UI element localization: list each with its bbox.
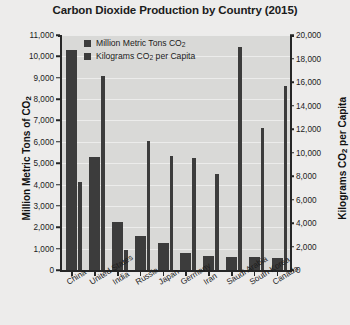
y-axis-right-tick-label: 8,000 bbox=[296, 172, 317, 181]
y-axis-right-tick-mark bbox=[290, 246, 294, 248]
x-axis-label-iran: Iran bbox=[202, 272, 219, 287]
chart-container: Carbon Dioxide Production by Country (20… bbox=[0, 0, 350, 325]
bar-kilograms-per-capita[interactable] bbox=[124, 250, 128, 270]
bar-group[interactable] bbox=[272, 35, 288, 270]
y-axis-right-tick-label: 4,000 bbox=[296, 219, 317, 228]
x-axis-tick-mark bbox=[94, 272, 96, 276]
y-axis-left-tick-label: 11,000 bbox=[8, 31, 54, 40]
y-axis-right-tick-label: 0 bbox=[296, 266, 301, 275]
y-axis-right-tick-label: 16,000 bbox=[296, 78, 321, 87]
bar-kilograms-per-capita[interactable] bbox=[78, 182, 82, 270]
bar-kilograms-per-capita[interactable] bbox=[147, 141, 151, 270]
bar-million-metric-tons[interactable] bbox=[180, 253, 191, 270]
y-axis-left-tick-mark bbox=[56, 162, 60, 164]
x-axis-tick-mark bbox=[140, 272, 142, 276]
bar-kilograms-per-capita[interactable] bbox=[192, 158, 196, 270]
bar-kilograms-per-capita[interactable] bbox=[261, 128, 265, 270]
bar-group[interactable] bbox=[66, 35, 82, 270]
bar-million-metric-tons[interactable] bbox=[112, 222, 123, 270]
y-axis-right-tick-label: 18,000 bbox=[296, 54, 321, 63]
y-axis-left-tick-mark bbox=[56, 248, 60, 250]
y-axis-left-tick-mark bbox=[56, 227, 60, 229]
y-axis-left-tick-mark bbox=[56, 205, 60, 207]
y-axis-left-tick-mark bbox=[56, 184, 60, 186]
bar-group[interactable] bbox=[112, 35, 128, 270]
y-axis-left-tick-mark bbox=[56, 56, 60, 58]
bar-million-metric-tons[interactable] bbox=[135, 236, 146, 270]
bars-layer bbox=[62, 35, 290, 270]
bar-kilograms-per-capita[interactable] bbox=[170, 156, 174, 270]
chart-title: Carbon Dioxide Production by Country (20… bbox=[0, 4, 350, 16]
bar-million-metric-tons[interactable] bbox=[66, 50, 77, 270]
bar-group[interactable] bbox=[89, 35, 105, 270]
plot-area bbox=[60, 35, 292, 272]
bar-million-metric-tons[interactable] bbox=[89, 157, 100, 270]
bar-kilograms-per-capita[interactable] bbox=[284, 86, 288, 270]
y-axis-right-tick-label: 10,000 bbox=[296, 148, 321, 157]
y-axis-right-tick-mark bbox=[290, 128, 294, 130]
x-axis-tick-mark bbox=[254, 272, 256, 276]
x-axis-tick-mark bbox=[208, 272, 210, 276]
y-axis-left-tick-mark bbox=[56, 120, 60, 122]
bar-group[interactable] bbox=[158, 35, 174, 270]
y-axis-left-tick-mark bbox=[56, 77, 60, 79]
y-axis-right-tick-label: 2,000 bbox=[296, 242, 317, 251]
x-axis-label-india: India bbox=[111, 270, 131, 287]
x-axis-tick-mark bbox=[277, 272, 279, 276]
y-axis-right-tick-mark bbox=[290, 81, 294, 83]
bar-million-metric-tons[interactable] bbox=[272, 258, 283, 270]
x-axis-tick-mark bbox=[185, 272, 187, 276]
y-axis-left-tick-label: 0 bbox=[8, 266, 54, 275]
y-axis-right-tick-mark bbox=[290, 34, 294, 36]
y-axis-right-tick-label: 20,000 bbox=[296, 31, 321, 40]
x-axis-tick-mark bbox=[163, 272, 165, 276]
y-axis-left-tick-mark bbox=[56, 98, 60, 100]
y-axis-right-tick-mark bbox=[290, 199, 294, 201]
legend-label-kilograms-per-capita: Kilograms CO2 per Capita bbox=[96, 51, 195, 61]
y-axis-left-title-subscript: 2 bbox=[24, 96, 33, 100]
legend-item-million-metric-tons: Million Metric Tons CO2 bbox=[84, 38, 195, 48]
y-axis-left-tick-mark bbox=[56, 141, 60, 143]
x-axis-tick-mark bbox=[231, 272, 233, 276]
y-axis-right-title-subscript: 2 bbox=[340, 149, 349, 153]
bar-kilograms-per-capita[interactable] bbox=[238, 47, 242, 270]
y-axis-right-tick-mark bbox=[290, 222, 294, 224]
y-axis-left-tick-mark bbox=[56, 269, 60, 271]
bar-million-metric-tons[interactable] bbox=[249, 257, 260, 270]
y-axis-left-title: Million Metric Tons of CO2 bbox=[21, 58, 34, 258]
y-axis-right-tick-mark bbox=[290, 152, 294, 154]
y-axis-right-title-suffix: per Capita bbox=[337, 97, 348, 149]
y-axis-right-tick-mark bbox=[290, 105, 294, 107]
y-axis-right-title-text: Kilograms CO bbox=[337, 153, 348, 220]
x-axis-tick-mark bbox=[117, 272, 119, 276]
y-axis-right-tick-label: 14,000 bbox=[296, 101, 321, 110]
x-axis-tick-mark bbox=[71, 272, 73, 276]
y-axis-right-tick-label: 12,000 bbox=[296, 125, 321, 134]
bar-group[interactable] bbox=[135, 35, 151, 270]
chart-legend: Million Metric Tons CO2 Kilograms CO2 pe… bbox=[84, 38, 195, 65]
bar-group[interactable] bbox=[249, 35, 265, 270]
bar-group[interactable] bbox=[226, 35, 242, 270]
y-axis-right-tick-mark bbox=[290, 269, 294, 271]
legend-item-kilograms-per-capita: Kilograms CO2 per Capita bbox=[84, 51, 195, 61]
y-axis-right-title: Kilograms CO2 per Capita bbox=[337, 58, 350, 258]
legend-swatch-icon bbox=[84, 40, 91, 47]
y-axis-right-tick-mark bbox=[290, 175, 294, 177]
bar-million-metric-tons[interactable] bbox=[203, 256, 214, 270]
bar-kilograms-per-capita[interactable] bbox=[101, 76, 105, 270]
y-axis-left-tick-mark bbox=[56, 34, 60, 36]
bar-group[interactable] bbox=[180, 35, 196, 270]
bar-million-metric-tons[interactable] bbox=[158, 243, 169, 270]
legend-label-million-metric-tons: Million Metric Tons CO2 bbox=[96, 38, 186, 48]
bar-group[interactable] bbox=[203, 35, 219, 270]
legend-swatch-icon bbox=[84, 53, 91, 60]
bar-kilograms-per-capita[interactable] bbox=[215, 174, 219, 270]
y-axis-right-tick-mark bbox=[290, 58, 294, 60]
y-axis-right-tick-label: 6,000 bbox=[296, 195, 317, 204]
y-axis-left-title-text: Million Metric Tons of CO bbox=[21, 101, 32, 221]
bar-million-metric-tons[interactable] bbox=[226, 257, 237, 270]
